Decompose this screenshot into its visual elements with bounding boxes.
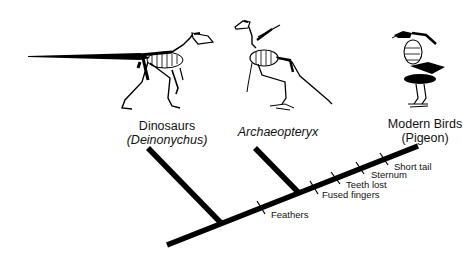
- taxon-label-archaeopteryx: Archaeopteryx: [228, 125, 328, 139]
- dinosaur-branch-line: [148, 148, 221, 223]
- taxon-example: (Deinonychus): [112, 133, 222, 147]
- trait-label-fused-fingers: Fused fingers: [322, 189, 380, 200]
- deinonychus-skeleton-icon: [28, 33, 213, 109]
- taxon-label-dinosaurs: Dinosaurs (Deinonychus): [112, 119, 222, 147]
- taxon-name: Modern Birds: [375, 117, 475, 131]
- taxon-name: Dinosaurs: [112, 119, 222, 133]
- trait-label-feathers: Feathers: [271, 209, 309, 220]
- taxon-example: (Pigeon): [375, 131, 475, 145]
- pigeon-skeleton-icon: [392, 31, 445, 107]
- archaeopteryx-skeleton-icon: [235, 21, 332, 110]
- trait-label-teeth-lost: Teeth lost: [346, 179, 387, 190]
- trait-label-short-tail: Short tail: [394, 161, 432, 172]
- main-lineage-line: [167, 146, 418, 245]
- taxon-label-modern-birds: Modern Birds (Pigeon): [375, 117, 475, 145]
- archaeopteryx-branch-line: [255, 148, 298, 192]
